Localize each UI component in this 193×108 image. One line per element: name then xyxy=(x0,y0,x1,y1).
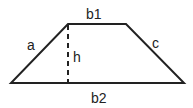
label-a: a xyxy=(27,37,35,53)
trapezoid-figure: b1 a h c b2 xyxy=(0,0,193,108)
label-b2: b2 xyxy=(91,90,107,106)
trapezoid-outline xyxy=(11,24,184,83)
trapezoid-diagram: b1 a h c b2 xyxy=(0,0,193,108)
label-h: h xyxy=(73,49,81,65)
label-b1: b1 xyxy=(86,6,102,22)
label-c: c xyxy=(152,35,159,51)
